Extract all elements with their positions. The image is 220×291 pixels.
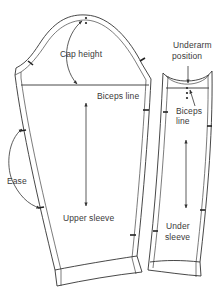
under-sleeve-right-seam-outer [200, 71, 212, 276]
upper-sleeve-cap-outer [16, 15, 151, 79]
biceps-line-label: Biceps line [97, 91, 139, 101]
under-sleeve-top-inner [166, 75, 209, 84]
ease-label: Ease [7, 176, 27, 186]
under-biceps-label-line1: Biceps [176, 106, 202, 116]
upper-sleeve-right-seam-inner [132, 80, 146, 274]
ease-arrow [9, 129, 40, 208]
underarm-label-line2: position [172, 51, 202, 61]
under-sleeve-piece [148, 66, 212, 277]
upper-sleeve-hem-line [55, 256, 137, 270]
upper-sleeve-right-seam-outer [137, 79, 151, 272]
under-sleeve-label-line2: sleeve [165, 232, 190, 242]
under-biceps-label-line2: line [176, 116, 190, 126]
under-sleeve-label-line1: Under [166, 221, 190, 231]
under-sleeve-hem-bottom [148, 270, 201, 276]
under-sleeve-left-seam-outer [148, 73, 163, 270]
underarm-label-line1: Underarm [173, 40, 212, 50]
upper-sleeve-label: Upper sleeve [63, 213, 114, 223]
under-biceps-pointer [190, 90, 195, 106]
upper-sleeve-left-seam-inner [21, 72, 61, 270]
upper-sleeve-hem-bottom [57, 272, 142, 286]
cap-height-label: Cap height [60, 49, 102, 59]
under-sleeve-hem-line [150, 261, 200, 263]
